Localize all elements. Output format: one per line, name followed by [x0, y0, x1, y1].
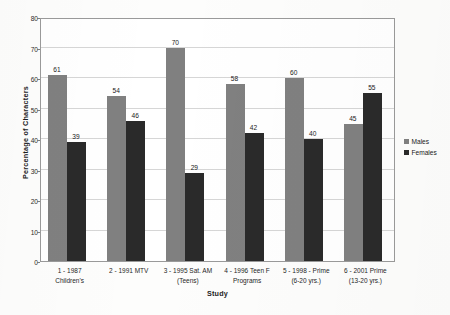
- bar-value-label: 46: [122, 112, 148, 119]
- bar-value-label: 61: [44, 66, 70, 73]
- legend-item-females[interactable]: Females: [404, 147, 450, 157]
- legend-label: Females: [412, 149, 437, 156]
- bar-group: 4555: [337, 19, 396, 261]
- bar-females[interactable]: [126, 121, 145, 261]
- bar-value-label: 39: [63, 133, 89, 140]
- bar-value-label: 54: [103, 87, 129, 94]
- y-tick-label: 0: [16, 259, 38, 266]
- y-tick-mark: [37, 49, 40, 50]
- legend-swatch-icon: [404, 139, 409, 144]
- y-tick-mark: [37, 18, 40, 19]
- bar-females[interactable]: [304, 139, 323, 261]
- y-axis-title: Percentage of Characters: [21, 48, 30, 218]
- y-tick-mark: [37, 110, 40, 111]
- y-tick-label: 40: [16, 137, 38, 144]
- bar-males[interactable]: [166, 48, 185, 262]
- bar-females[interactable]: [185, 173, 204, 261]
- bar-value-label: 60: [281, 69, 307, 76]
- bar-group: 5842: [219, 19, 278, 261]
- bar-value-label: 55: [359, 84, 385, 91]
- y-tick-mark: [37, 140, 40, 141]
- bar-males[interactable]: [107, 96, 126, 261]
- legend-swatch-icon: [404, 150, 409, 155]
- bar-value-label: 42: [241, 124, 267, 131]
- bar-group: 7029: [159, 19, 218, 261]
- y-tick-mark: [37, 201, 40, 202]
- bar-females[interactable]: [245, 133, 264, 261]
- y-tick-label: 20: [16, 198, 38, 205]
- y-tick-label: 30: [16, 167, 38, 174]
- bar-value-label: 29: [181, 164, 207, 171]
- plot-area: 613954467029584260404555: [40, 18, 395, 262]
- x-axis-label: 6 - 2001 Prime(13-20 yrs.): [330, 266, 401, 285]
- y-tick-label: 50: [16, 106, 38, 113]
- bar-value-label: 70: [162, 39, 188, 46]
- bar-males[interactable]: [285, 78, 304, 261]
- bar-males[interactable]: [344, 124, 363, 261]
- bar-group: 5446: [100, 19, 159, 261]
- y-tick-mark: [37, 232, 40, 233]
- y-tick-label: 80: [16, 15, 38, 22]
- bar-value-label: 58: [222, 75, 248, 82]
- legend-item-males[interactable]: Males: [404, 136, 450, 146]
- bar-females[interactable]: [363, 93, 382, 261]
- bar-chart: Percentage of Characters 613954467029584…: [0, 0, 450, 315]
- legend-label: Males: [412, 138, 430, 145]
- y-tick-mark: [37, 171, 40, 172]
- bar-females[interactable]: [67, 142, 86, 261]
- bars-layer: 613954467029584260404555: [41, 19, 394, 261]
- bar-group: 6040: [278, 19, 337, 261]
- x-axis-title: Study: [40, 289, 395, 298]
- bar-males[interactable]: [226, 84, 245, 261]
- y-tick-mark: [37, 262, 40, 263]
- bar-value-label: 40: [300, 130, 326, 137]
- bar-group: 6139: [41, 19, 100, 261]
- bar-males[interactable]: [48, 75, 67, 261]
- chart-legend: MalesFemales: [404, 136, 450, 158]
- y-tick-label: 70: [16, 45, 38, 52]
- y-tick-mark: [37, 79, 40, 80]
- y-tick-label: 10: [16, 228, 38, 235]
- y-tick-label: 60: [16, 76, 38, 83]
